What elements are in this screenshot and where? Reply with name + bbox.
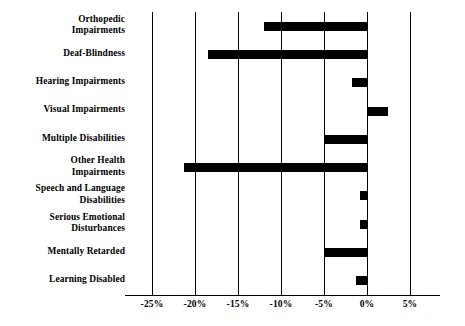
gridline-neg20 (195, 12, 196, 295)
category-label: Speech and Language Disabilities (0, 183, 128, 206)
x-tick-label: -15% (218, 299, 258, 309)
category-label: Deaf-Blindness (0, 48, 128, 60)
horizontal-bar-chart: Orthopedic ImpairmentsDeaf-BlindnessHear… (0, 0, 465, 326)
bar (356, 276, 366, 285)
category-label: Learning Disabled (0, 274, 128, 286)
bar (352, 78, 367, 87)
x-tick-mark (281, 289, 282, 295)
x-tick-label: -20% (175, 299, 215, 309)
x-tick-label: -25% (132, 299, 172, 309)
x-tick-mark (152, 289, 153, 295)
x-tick-label: 5% (390, 299, 430, 309)
x-tick-label: -10% (261, 299, 301, 309)
x-tick-label: 0% (347, 299, 387, 309)
bar (184, 163, 367, 172)
plot-area (131, 12, 431, 295)
x-tick-mark (410, 289, 411, 295)
bar (360, 191, 367, 200)
x-tick-mark (324, 289, 325, 295)
category-label: Serious Emotional Disturbances (0, 212, 128, 235)
category-label: Orthopedic Impairments (0, 14, 128, 37)
x-tick-mark (238, 289, 239, 295)
category-label: Visual Impairments (0, 104, 128, 116)
category-label: Other Health Impairments (0, 155, 128, 178)
category-label: Mentally Retarded (0, 246, 128, 258)
x-tick-label: -5% (304, 299, 344, 309)
x-tick-mark (367, 289, 368, 295)
bar (325, 248, 367, 257)
gridline-neg25 (152, 12, 153, 295)
category-label: Hearing Impairments (0, 76, 128, 88)
gridline-0 (367, 12, 368, 295)
bar (360, 220, 367, 229)
gridline-5 (410, 12, 411, 295)
category-label: Multiple Disabilities (0, 133, 128, 145)
x-axis-line (125, 295, 440, 296)
bar (208, 50, 367, 59)
category-label-column: Orthopedic ImpairmentsDeaf-BlindnessHear… (0, 0, 128, 290)
x-tick-mark (195, 289, 196, 295)
bar (264, 22, 367, 31)
bar (325, 135, 367, 144)
bar (367, 107, 388, 116)
